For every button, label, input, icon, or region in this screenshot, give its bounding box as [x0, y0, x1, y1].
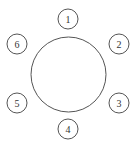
- seat-4: 4: [58, 119, 78, 139]
- seat-label: 6: [15, 39, 20, 50]
- round-table: [31, 37, 106, 112]
- seat-6: 6: [7, 34, 27, 54]
- seat-1: 1: [58, 9, 78, 29]
- seat-label: 3: [117, 98, 122, 109]
- seat-2: 2: [109, 34, 129, 54]
- seat-label: 2: [117, 39, 122, 50]
- round-table-diagram: 1 2 3 4 5 6: [0, 0, 136, 150]
- seat-label: 1: [66, 14, 71, 25]
- seat-label: 4: [66, 124, 71, 135]
- seat-3: 3: [109, 93, 129, 113]
- seat-5: 5: [7, 93, 27, 113]
- seat-label: 5: [15, 98, 20, 109]
